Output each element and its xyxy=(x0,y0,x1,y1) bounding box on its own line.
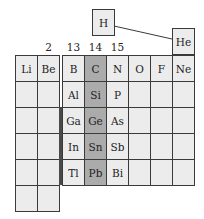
element-cell-empty xyxy=(172,133,195,160)
element-cell-empty xyxy=(172,159,195,186)
element-in: In xyxy=(62,133,85,160)
element-pb: Pb xyxy=(84,159,107,186)
element-cell-empty xyxy=(150,133,173,160)
element-o: O xyxy=(128,55,151,82)
element-as: As xyxy=(106,107,129,134)
element-cell-empty xyxy=(150,159,173,186)
element-sb: Sb xyxy=(106,133,129,160)
group-label-15: 15 xyxy=(106,41,129,53)
element-ga: Ga xyxy=(62,107,85,134)
element-cell-empty xyxy=(128,133,151,160)
element-n: N xyxy=(106,55,129,82)
element-cell-empty xyxy=(15,81,38,108)
element-cell-empty xyxy=(128,159,151,186)
element-cell-empty xyxy=(15,159,38,186)
element-cell-empty xyxy=(37,107,60,134)
element-cell-empty xyxy=(150,107,173,134)
element-cell-empty xyxy=(172,81,195,108)
element-bi: Bi xyxy=(106,159,129,186)
element-cell-empty xyxy=(15,185,38,212)
element-cell-empty xyxy=(128,107,151,134)
element-h: H xyxy=(92,9,115,36)
group-label-2: 2 xyxy=(37,41,60,53)
group-label-13: 13 xyxy=(62,41,85,53)
element-f: F xyxy=(150,55,173,82)
element-c: C xyxy=(84,55,107,82)
element-cell-empty xyxy=(150,81,173,108)
element-cell-empty xyxy=(15,107,38,134)
group-label-14: 14 xyxy=(84,41,107,53)
element-cell-empty xyxy=(37,159,60,186)
element-sn: Sn xyxy=(84,133,107,160)
element-cell-empty xyxy=(15,133,38,160)
element-cell-empty xyxy=(172,107,195,134)
element-he: He xyxy=(172,28,195,55)
element-p: P xyxy=(106,81,129,108)
element-be: Be xyxy=(37,55,60,82)
element-b: B xyxy=(62,55,85,82)
element-cell-empty xyxy=(37,133,60,160)
element-ne: Ne xyxy=(172,55,195,82)
element-tl: Tl xyxy=(62,159,85,186)
element-ge: Ge xyxy=(84,107,107,134)
transition-gap-bar xyxy=(59,107,62,185)
element-al: Al xyxy=(62,81,85,108)
element-cell-empty xyxy=(37,185,60,212)
element-li: Li xyxy=(15,55,38,82)
element-cell-empty xyxy=(37,81,60,108)
element-si: Si xyxy=(84,81,107,108)
element-cell-empty xyxy=(128,81,151,108)
